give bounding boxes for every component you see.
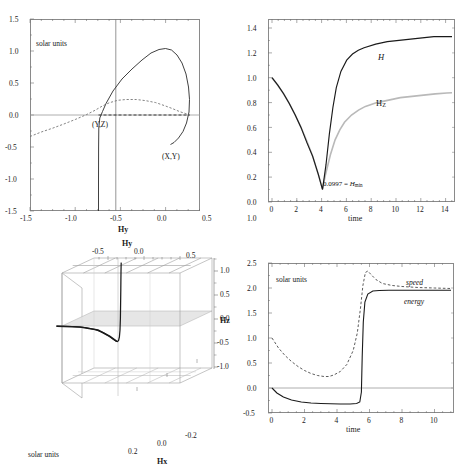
ytick-top-left-1: -1.0 xyxy=(5,175,17,184)
plot-canvas-bottom-right xyxy=(240,258,461,469)
xtick-top-right-1: 2 xyxy=(294,205,298,214)
running-head xyxy=(0,0,461,13)
xtick-bottom-right-5: 10 xyxy=(430,416,438,425)
hz-tick-2: 0.0 xyxy=(220,314,229,323)
ytick-top-left-0: -1.5 xyxy=(5,207,17,216)
xtick-top-right-7: 14 xyxy=(441,205,449,214)
plot-canvas-top-right xyxy=(240,14,461,224)
hx-tick-1: 0.0 xyxy=(157,439,166,448)
xtick-bottom-right-0: 0 xyxy=(270,416,274,425)
hx-axis-label-3d: Hx xyxy=(157,457,167,466)
curve-label-h: H xyxy=(378,52,384,62)
ytick-bottom-right-2: 0.5 xyxy=(247,359,256,368)
xtick-bottom-right-4: 8 xyxy=(400,416,404,425)
ytick-top-right-6: 1.2 xyxy=(247,49,256,58)
hy-tick-2: 0.5 xyxy=(186,251,195,260)
xaxis-label-top-left: Hy xyxy=(118,225,128,234)
panel-top-right: 1.4 1.2 1.0 0.8 0.6 0.4 0.2 0.0 0 2 4 6 … xyxy=(240,14,461,224)
panel-bottom-right: 2.5 2.0 1.5 1.0 0.5 0.0 -0.5 0 2 4 6 8 1… xyxy=(240,258,461,469)
units-label-top-left: solar units xyxy=(36,39,67,48)
panel-top-left: solar units (Y,Z) (X,Y) 1.5 1.0 0.5 0.0 … xyxy=(0,14,215,239)
xtick-top-left-3: 0.0 xyxy=(157,214,166,223)
ytick-top-right-4: 0.8 xyxy=(247,99,256,108)
ytick-top-right-1: 0.2 xyxy=(247,173,256,182)
hx-tick-2: -0.2 xyxy=(185,431,197,440)
ytick-top-right-2: 0.4 xyxy=(247,148,256,157)
curve-label-xy: (X,Y) xyxy=(162,152,180,161)
ytick-top-right-0: 0.0 xyxy=(247,198,256,207)
ytick-bottom-right-1: 0.0 xyxy=(247,384,256,393)
xtick-top-right-3: 6 xyxy=(344,205,348,214)
xtick-top-right-6: 12 xyxy=(416,205,424,214)
curve-label-yz: (Y,Z) xyxy=(92,120,108,129)
xtick-bottom-right-3: 6 xyxy=(367,416,371,425)
units-label-bottom-right: solar units xyxy=(276,275,307,284)
ytick-bottom-right-4: 1.5 xyxy=(247,309,256,318)
ytick-bottom-right-0: -0.5 xyxy=(243,409,255,418)
hx-tick-0: 0.2 xyxy=(128,447,137,456)
ytick-top-right-3: 0.6 xyxy=(247,124,256,133)
xtick-top-right-2: 4 xyxy=(319,205,323,214)
hz-tick-0: 1.0 xyxy=(220,266,229,275)
ytick-top-left-3: 0.0 xyxy=(9,111,18,120)
xtick-top-left-1: -1.0 xyxy=(65,214,77,223)
ytick-bottom-right-5: 2.0 xyxy=(247,284,256,293)
xaxis-label-top-right: time xyxy=(348,214,362,223)
ytick-top-right-7: 1.4 xyxy=(247,24,256,33)
hz-tick-4: -1.0 xyxy=(217,362,229,371)
xtick-top-left-0: -1.5 xyxy=(20,214,32,223)
xtick-top-right-5: 10 xyxy=(392,205,400,214)
ytick-bottom-right-6: 2.5 xyxy=(247,259,256,268)
xtick-bottom-right-2: 4 xyxy=(335,416,339,425)
plot-canvas-bottom-left xyxy=(0,238,232,469)
hz-tick-3: -0.5 xyxy=(217,338,229,347)
ytick-bottom-right-3: 1.0 xyxy=(247,334,256,343)
ytick-top-left-6: 1.5 xyxy=(9,15,18,24)
xtick-bottom-right-1: 2 xyxy=(302,416,306,425)
xtick-top-left-4: 0.5 xyxy=(202,214,211,223)
hy-tick-1: 0.0 xyxy=(134,247,143,256)
ytick-top-left-2: -0.5 xyxy=(5,143,17,152)
curve-label-speed: speed xyxy=(406,278,423,287)
panel-bottom-left: Hy Hx Hz -0.5 0.0 0.5 0.2 0.0 -0.2 1.0 0… xyxy=(0,238,232,469)
curve-label-energy: energy xyxy=(404,297,424,306)
ytick-top-right-5: 1.0 xyxy=(247,74,256,83)
units-label-bottom-left: solar units xyxy=(28,450,59,459)
ytick-top-left-5: 1.0 xyxy=(9,47,18,56)
hy-tick-0: -0.5 xyxy=(92,247,104,256)
xtick-top-right-4: 8 xyxy=(369,205,373,214)
xaxis-label-bottom-right: time xyxy=(346,425,360,434)
curve-label-hz: HZ xyxy=(376,98,386,108)
ytick-top-left-4: 0.5 xyxy=(9,79,18,88)
hmin-annotation: 0.0997 = Hmin xyxy=(323,180,363,188)
xtick-top-right-0: 0 xyxy=(270,205,274,214)
hz-tick-1: 0.5 xyxy=(220,290,229,299)
hy-axis-label-3d: Hy xyxy=(122,239,132,248)
xtick-top-left-2: -0.5 xyxy=(110,214,122,223)
